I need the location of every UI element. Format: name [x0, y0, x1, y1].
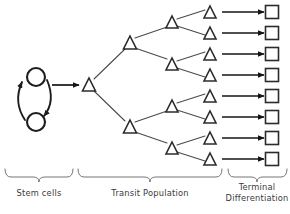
section-braces: [5, 169, 287, 182]
tree-edge-l2b-l3-c: [135, 111, 167, 122]
tree-edge-l2b-l3-d: [135, 132, 167, 143]
stem-cell-cycle: [18, 68, 51, 131]
terminal-square-3: [266, 48, 279, 61]
tree-edge-l2a-l3-b: [135, 48, 167, 59]
tree-edge-l1-l2-b: [94, 91, 125, 121]
tree-edge-l3a-l4-2: [177, 26, 205, 35]
transit-triangle-l3-3: [166, 100, 178, 112]
transit-triangle-l4-7: [204, 132, 216, 144]
terminal-square-5: [266, 90, 279, 103]
terminal-square-7: [266, 132, 279, 145]
terminal-square-1: [266, 6, 279, 19]
transit-population-triangles: [83, 6, 217, 165]
tree-edge-l3d-l4-7: [177, 136, 205, 145]
stem-cell-node-top: [27, 68, 45, 86]
terminal-square-4: [266, 69, 279, 82]
tree-edge-l3d-l4-8: [177, 152, 205, 161]
tree-edge-l3b-l4-3: [177, 52, 205, 61]
tree-edge-l3b-l4-4: [177, 68, 205, 77]
transit-triangle-l4-8: [204, 153, 216, 165]
caption-terminal-line-2: Differentiation: [224, 193, 290, 204]
transit-triangle-l4-6: [204, 111, 216, 123]
transit-triangle-l3-2: [166, 58, 178, 70]
tree-edge-l3a-l4-1: [177, 10, 205, 19]
transit-triangle-l4-4: [204, 69, 216, 81]
brace-transit-population: [78, 169, 222, 182]
caption-transit-population: Transit Population: [78, 188, 222, 199]
tree-edge-l3c-l4-6: [177, 110, 205, 119]
transit-triangle-l4-5: [204, 90, 216, 102]
brace-stem-cells: [5, 169, 73, 182]
caption-stem-cells: Stem cells: [2, 188, 76, 199]
tree-edge-l3c-l4-5: [177, 94, 205, 103]
self-renewal-arc-down: [44, 80, 51, 116]
terminal-square-6: [266, 111, 279, 124]
brace-terminal-differentiation: [228, 169, 287, 182]
tree-edge-l2a-l3-a: [135, 27, 167, 38]
stem-cell-node-bottom: [27, 113, 45, 131]
transit-triangle-l4-3: [204, 48, 216, 60]
terminal-arrows: [222, 12, 264, 159]
transit-triangle-l4-1: [204, 6, 216, 18]
caption-terminal-differentiation: Terminal Differentiation: [224, 182, 290, 203]
terminal-square-8: [266, 153, 279, 166]
terminal-square-2: [266, 27, 279, 40]
caption-terminal-line-1: Terminal: [224, 182, 290, 193]
transit-triangle-l3-1: [166, 16, 178, 28]
diagram-canvas: Stem cells Transit Population Terminal D…: [0, 0, 290, 214]
transit-triangle-l3-4: [166, 142, 178, 154]
self-renewal-arc-up: [18, 82, 25, 120]
terminal-differentiation-squares: [266, 6, 279, 166]
transit-triangle-l1-1: [83, 78, 96, 91]
tree-edge-l1-l2-a: [94, 49, 125, 79]
tree-edges: [94, 10, 205, 161]
transit-triangle-l4-2: [204, 27, 216, 39]
